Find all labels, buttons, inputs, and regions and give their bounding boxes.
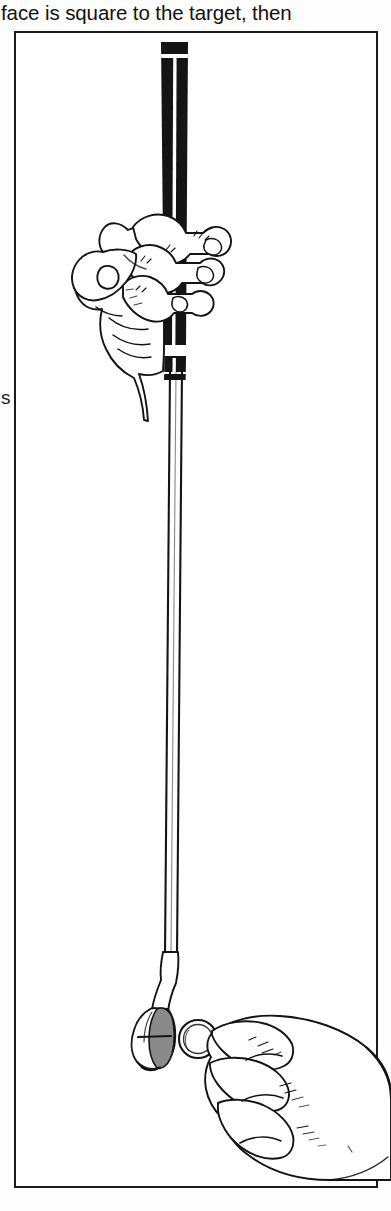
lower-hand [205,1016,391,1180]
putter-head [132,952,179,1071]
putter-shaft [165,370,182,955]
upper-hand [72,214,231,421]
illustration-frame [14,31,378,1188]
putter-grip [161,42,188,380]
putter-grip-illustration [0,0,391,1211]
scanned-page: face is square to the target, then s [0,0,391,1211]
